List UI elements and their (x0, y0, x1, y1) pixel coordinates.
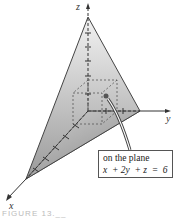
plane-equation: x + 2y + z = 6 (103, 164, 168, 176)
figure-caption: FIGURE 13.__ (2, 209, 66, 218)
z-axis-arrow-icon (86, 3, 90, 9)
point-on-plane (104, 94, 109, 99)
plane-diagram (0, 0, 176, 220)
plane-callout: on the plane x + 2y + z = 6 (98, 150, 173, 178)
y-axis-label: y (166, 113, 170, 124)
z-axis-label: z (76, 1, 80, 12)
callout-line-1: on the plane (103, 152, 168, 164)
